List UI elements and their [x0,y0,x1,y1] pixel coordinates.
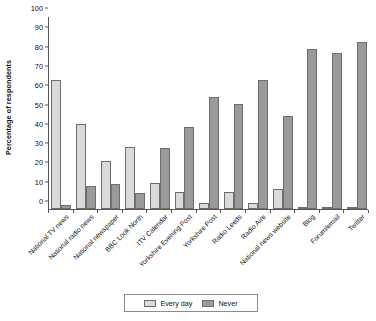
y-axis-tick-label: 90 [35,23,45,32]
y-axis-tick-label: 30 [35,139,45,148]
bar-every-day [298,207,308,209]
bar-group [76,17,96,209]
y-axis-tick-mark [45,8,48,9]
x-axis-label: Blog [302,213,317,228]
bar-never [209,97,219,209]
x-axis-label: National news website [238,213,292,267]
bar-group [175,17,195,209]
bar-never [135,193,145,209]
y-axis-tick: 70 [35,61,48,70]
bar-every-day [224,192,234,209]
bar-group [347,17,367,209]
bar-every-day [248,203,258,209]
bar-never [283,116,293,209]
y-axis-title: Percentage of respondents [0,0,18,214]
bar-group [273,17,293,209]
bars-layer [49,17,368,209]
y-axis-tick: 60 [35,81,48,90]
y-axis-tick-label: 20 [35,158,45,167]
x-axis-tick-mark [368,210,369,213]
y-axis-tick-mark [45,162,48,163]
bar-every-day [347,207,357,209]
bar-never [184,127,194,209]
y-axis-tick-mark [45,123,48,124]
bar-group [322,17,342,209]
y-axis-tick: 10 [35,177,48,186]
y-axis-title-text: Percentage of respondents [5,59,14,154]
y-axis-tick-mark [45,104,48,105]
x-axis-line [48,209,368,210]
bar-group [298,17,318,209]
legend-label: Every day [160,299,192,308]
y-axis-tick: 30 [35,139,48,148]
bar-never [234,104,244,209]
x-axis-labels: National TV newsNational radio newsNatio… [48,213,368,285]
bar-never [160,148,170,209]
bar-every-day [150,183,160,209]
y-axis-tick: 20 [35,158,48,167]
y-axis-tick: 50 [35,100,48,109]
y-axis-tick-mark [45,181,48,182]
y-axis-tick-mark [45,65,48,66]
y-axis-tick-label: 50 [35,100,45,109]
x-axis-label: Twitter [346,213,366,233]
bar-every-day [76,124,86,209]
legend-label: Never [218,299,237,308]
y-axis-tick-label: 60 [35,81,45,90]
y-axis-tick: 80 [35,42,48,51]
bar-never [86,186,96,209]
x-axis-label: National TV news [27,213,71,257]
bar-never [111,184,121,209]
y-axis-tick-mark [45,201,48,202]
bar-group [248,17,268,209]
bar-every-day [322,207,332,209]
y-axis-tick-label: 40 [35,119,45,128]
y-axis-tick-mark [45,143,48,144]
y-axis-tick: 100 [31,4,48,13]
y-axis-tick-label: 70 [35,61,45,70]
y-axis-tick-mark [45,46,48,47]
y-axis-tick-label: 100 [31,4,45,13]
y-axis-tick-mark [45,27,48,28]
chart-legend: Every dayNever [124,294,258,312]
y-axis-tick: 0 [39,197,48,206]
y-axis-tick-label: 10 [35,177,45,186]
bar-never [258,80,268,209]
bar-chart: Percentage of respondents 01020304050607… [0,0,376,321]
legend-swatch-every-day [144,300,156,307]
bar-group [150,17,170,209]
y-axis-tick: 90 [35,23,48,32]
bar-every-day [125,147,135,209]
legend-swatch-never [202,300,214,307]
y-axis-tick-label: 80 [35,42,45,51]
bar-every-day [273,189,283,209]
bar-every-day [101,161,111,209]
bar-group [199,17,219,209]
plot-area: 0102030405060708090100 [48,17,368,210]
bar-never [357,42,367,209]
x-axis-label: National radio news [47,213,95,261]
bar-group [125,17,145,209]
bar-every-day [51,80,61,209]
y-axis-tick-mark [45,85,48,86]
bar-group [51,17,71,209]
bar-never [61,205,71,209]
bar-group [101,17,121,209]
y-axis-tick: 40 [35,119,48,128]
bar-every-day [175,192,185,209]
bar-never [307,49,317,209]
legend-entry: Every day [144,299,192,308]
bar-never [332,53,342,209]
bar-every-day [199,203,209,209]
legend-entry: Never [202,299,237,308]
bar-group [224,17,244,209]
